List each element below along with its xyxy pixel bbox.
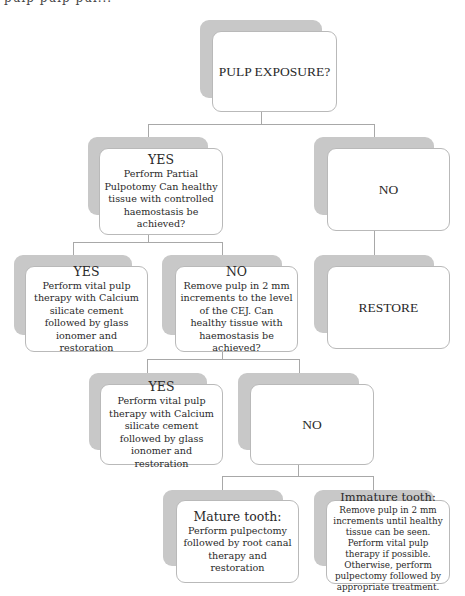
clipped-header-text: pulp pulp pul... — [4, 0, 112, 5]
node-title: YES — [74, 264, 100, 279]
connector — [374, 124, 375, 137]
connector — [147, 359, 300, 360]
connector — [374, 230, 375, 255]
node-title: YES — [148, 152, 174, 167]
node-no-remove-pulp: NO Remove pulp in 2 mm increments to the… — [175, 266, 298, 352]
node-title: PULP EXPOSURE? — [219, 64, 331, 79]
node-title: NO — [302, 417, 322, 432]
connector — [222, 242, 223, 255]
node-body: Perform vital pulp therapy with Calcium … — [30, 280, 143, 355]
node-yes-partial-pulpotomy: YES Perform Partial Pulpotomy Can health… — [99, 148, 223, 235]
connector — [147, 359, 148, 373]
node-title: Mature tooth: — [193, 509, 281, 524]
connector — [148, 124, 149, 137]
node-pulp-exposure: PULP EXPOSURE? — [212, 31, 337, 112]
connector — [222, 476, 374, 477]
connector — [261, 111, 262, 124]
node-mature-tooth: Mature tooth: Perform pulpectomy followe… — [176, 500, 299, 583]
node-restore: RESTORE — [327, 266, 450, 349]
node-no-healthy-tissue: NO — [250, 384, 374, 465]
node-title: Immature tooth: — [340, 491, 436, 504]
node-yes-vital-pulp-therapy: YES Perform vital pulp therapy with Calc… — [25, 266, 148, 352]
node-immature-tooth: Immature tooth: Remove pulp in 2 mm incr… — [326, 500, 450, 584]
node-yes-vital-pulp-therapy-2: YES Perform vital pulp therapy with Calc… — [100, 384, 223, 465]
node-body: Perform Partial Pulpotomy Can healthy ti… — [104, 168, 218, 231]
connector — [73, 242, 74, 255]
node-title: NO — [379, 182, 399, 197]
node-body: Perform vital pulp therapy with Calcium … — [105, 395, 218, 470]
node-title: YES — [149, 379, 175, 394]
node-title: NO — [226, 264, 247, 279]
node-no-exposure: NO — [327, 148, 450, 231]
connector — [222, 476, 223, 490]
connector — [299, 359, 300, 373]
connector — [373, 476, 374, 490]
node-title: RESTORE — [359, 300, 419, 315]
node-body: Remove pulp in 2 mm increments to the le… — [180, 280, 293, 355]
connector — [298, 464, 299, 476]
connector — [148, 234, 149, 242]
node-body: Remove pulp in 2 mm increments until hea… — [331, 505, 445, 593]
connector — [148, 124, 375, 125]
node-body: Perform pulpectomy followed by root cana… — [181, 525, 294, 575]
connector — [73, 242, 223, 243]
